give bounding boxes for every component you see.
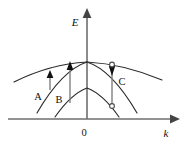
transition-a-label: A <box>34 91 42 102</box>
transition-a-arrow-head-icon <box>47 70 54 78</box>
transition-b-label: B <box>55 94 62 105</box>
transition-b-arrow-head-icon <box>67 61 74 70</box>
state-marker-upper-right <box>110 62 115 67</box>
k-axis-arrow-icon <box>170 115 180 124</box>
upper-conduction-band-curve <box>14 62 162 82</box>
e-axis-label: E <box>71 16 79 28</box>
band-diagram-figure: E k 0 A B C <box>0 0 190 144</box>
state-marker-lower-right <box>110 104 115 109</box>
origin-label: 0 <box>81 127 86 138</box>
e-axis-arrow-icon <box>83 8 92 18</box>
band-diagram-canvas: E k 0 A B C <box>0 0 190 144</box>
transition-c-arrow-head-icon <box>109 66 115 76</box>
k-axis-label: k <box>164 127 170 139</box>
transition-c-label: C <box>118 76 125 87</box>
